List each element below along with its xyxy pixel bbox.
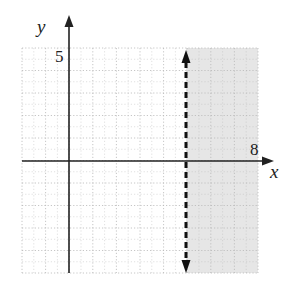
y-max-tick-label: 5 xyxy=(55,47,64,66)
y-axis-label: y xyxy=(35,16,46,37)
x-max-tick-label: 8 xyxy=(250,140,259,159)
y-axis-arrow-icon xyxy=(65,15,74,27)
y-axis xyxy=(65,15,74,273)
inequality-graph: y 5 8 x xyxy=(0,0,298,288)
x-axis-label: x xyxy=(269,161,279,182)
